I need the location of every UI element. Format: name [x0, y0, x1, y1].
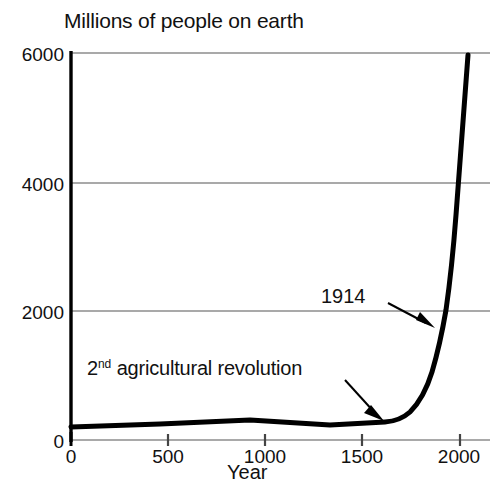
- x-axis-tick-label-0: 0: [36, 447, 106, 466]
- chart-canvas: [0, 0, 496, 488]
- annotation-agri-prefix: 2: [87, 357, 98, 379]
- annotation-agri-superscript: nd: [98, 357, 111, 371]
- arrow-head-1914: [416, 312, 435, 328]
- x-axis-ticks: [71, 432, 460, 446]
- annotation-label-1914: 1914: [321, 286, 366, 306]
- chart-title: Millions of people on earth: [64, 10, 304, 31]
- annotation-agri-suffix: agricultural revolution: [111, 357, 302, 379]
- annotation-arrow-agricultural-revolution: [345, 380, 384, 421]
- x-axis-tick-label-500: 500: [133, 447, 203, 466]
- y-axis-tick-label-2000: 2000: [2, 303, 64, 322]
- x-axis-label: Year: [227, 462, 267, 482]
- y-axis-tick-label-4000: 4000: [2, 175, 64, 194]
- y-axis-tick-label-6000: 6000: [2, 45, 64, 64]
- annotation-arrow-1914: [388, 303, 435, 328]
- x-axis-tick-label-1500: 1500: [327, 447, 397, 466]
- x-axis-tick-label-2000: 2000: [424, 447, 494, 466]
- population-chart: Millions of people on earth 6000 4000 20…: [0, 0, 496, 488]
- annotation-label-agricultural-revolution: 2nd agricultural revolution: [87, 358, 302, 378]
- arrow-head-agri: [364, 405, 384, 421]
